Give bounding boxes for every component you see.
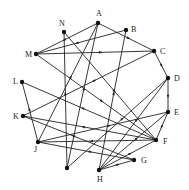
node-N <box>62 30 66 34</box>
node-M <box>34 52 38 56</box>
node-E <box>166 110 170 114</box>
node-K <box>21 114 25 118</box>
edge-J-E <box>38 112 168 142</box>
directed-graph: ABCDEFGHJKLMN <box>0 0 189 190</box>
node-H <box>97 168 101 172</box>
node-label: G <box>141 156 147 165</box>
node-L <box>20 80 24 84</box>
node-B <box>124 28 128 32</box>
node-label: D <box>174 74 180 83</box>
edge-layer <box>22 23 169 170</box>
edge-H-D <box>99 78 168 170</box>
node-unlabeled <box>65 166 69 170</box>
node-label: B <box>131 25 136 34</box>
arrow-icon <box>80 106 84 110</box>
edge-M-C <box>36 51 154 54</box>
node-A <box>96 21 100 25</box>
edge-B-M <box>36 30 126 54</box>
node-label: A <box>96 9 102 18</box>
node-label: N <box>59 19 65 28</box>
node-label: L <box>13 77 18 86</box>
node-D <box>166 76 170 80</box>
edge-F-L <box>22 82 156 140</box>
node-label: K <box>13 112 19 121</box>
arrow-icon <box>89 140 93 143</box>
edge-A-C <box>98 23 154 51</box>
arrow-icon <box>99 51 103 54</box>
edge-M-F <box>36 54 156 140</box>
arrow-icon <box>128 152 132 156</box>
edge-A-M <box>36 23 98 54</box>
node-G <box>132 158 136 162</box>
edge-J-G <box>38 142 134 160</box>
node-J <box>36 140 40 144</box>
node-F <box>154 138 158 142</box>
node-label: F <box>163 137 168 146</box>
edge-N-F <box>64 32 156 140</box>
node-C <box>152 49 156 53</box>
arrow-icon <box>160 63 164 67</box>
label-layer: ABCDEFGHJKLMN <box>13 9 180 184</box>
arrow-icon <box>160 125 164 129</box>
node-label: M <box>25 50 32 59</box>
arrow-icon <box>167 95 170 99</box>
node-label: E <box>174 108 179 117</box>
node-label: J <box>34 145 37 154</box>
arrow-icon <box>93 78 97 82</box>
node-label: C <box>160 47 165 56</box>
edge-J-L <box>22 82 38 142</box>
arrow-icon <box>126 36 130 40</box>
node-label: H <box>97 175 103 184</box>
